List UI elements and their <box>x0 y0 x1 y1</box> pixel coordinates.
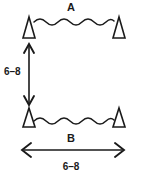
diagram-graphics <box>0 0 142 177</box>
top-right-triangle <box>113 17 125 38</box>
vertical-dimension-arrow <box>24 44 34 105</box>
bottom-wavy-line <box>34 118 114 124</box>
label-side-b: B <box>0 133 142 144</box>
horizontal-dimension-arrow <box>22 143 124 157</box>
label-side-a: A <box>0 2 142 13</box>
label-horizontal-dimension: 6–8 <box>0 162 142 172</box>
bottom-left-triangle <box>23 108 35 127</box>
label-vertical-dimension: 6–8 <box>4 67 21 77</box>
bottom-right-triangle <box>113 108 125 127</box>
top-wavy-line <box>34 19 114 25</box>
top-left-triangle <box>23 17 35 38</box>
diagram-canvas: A 6–8 B 6–8 <box>0 0 142 177</box>
